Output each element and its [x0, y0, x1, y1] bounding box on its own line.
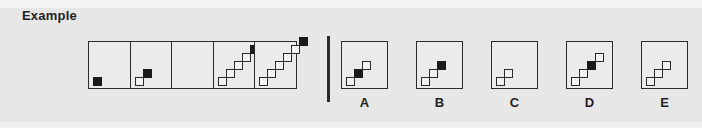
empty-square — [242, 53, 251, 62]
filled-square — [587, 61, 596, 70]
option-b[interactable]: B — [416, 41, 463, 110]
option-e-label: E — [641, 95, 688, 110]
sequence-cell-3 — [171, 41, 214, 89]
option-a-label: A — [341, 95, 388, 110]
empty-square — [654, 69, 663, 78]
empty-square — [429, 69, 438, 78]
page-bottom-band — [0, 122, 702, 128]
option-b-box[interactable] — [416, 41, 463, 89]
sequence-options-divider — [327, 36, 330, 102]
sequence-cell-1 — [88, 41, 131, 89]
option-e-box[interactable] — [641, 41, 688, 89]
sequence-cell-4 — [213, 41, 256, 89]
empty-square — [234, 61, 243, 70]
empty-square — [275, 61, 284, 70]
empty-square — [571, 77, 580, 86]
option-a[interactable]: A — [341, 41, 388, 110]
empty-square — [504, 69, 513, 78]
empty-square — [291, 45, 300, 54]
answer-options: ABCDE — [341, 41, 688, 110]
example-heading: Example — [22, 8, 77, 23]
empty-square — [362, 61, 371, 70]
empty-square — [346, 77, 355, 86]
empty-square — [646, 77, 655, 86]
empty-square — [218, 77, 227, 86]
empty-square — [579, 69, 588, 78]
option-b-label: B — [416, 95, 463, 110]
example-item-panel: Example ABCDE — [0, 0, 702, 128]
sequence-strip — [88, 41, 297, 89]
empty-square — [267, 69, 276, 78]
page-top-band — [0, 0, 702, 8]
filled-square — [143, 69, 152, 78]
filled-square — [437, 61, 446, 70]
option-a-box[interactable] — [341, 41, 388, 89]
empty-square — [662, 61, 671, 70]
option-c[interactable]: C — [491, 41, 538, 110]
option-d[interactable]: D — [566, 41, 613, 110]
empty-square — [496, 77, 505, 86]
sequence-cell-5 — [254, 41, 297, 89]
filled-square — [93, 77, 102, 86]
option-c-label: C — [491, 95, 538, 110]
filled-square — [299, 37, 308, 46]
empty-square — [135, 77, 144, 86]
empty-square — [226, 69, 235, 78]
empty-square — [259, 77, 268, 86]
option-d-label: D — [566, 95, 613, 110]
filled-square — [354, 69, 363, 78]
empty-square — [283, 53, 292, 62]
empty-square — [421, 77, 430, 86]
sequence-cell-2 — [130, 41, 173, 89]
option-e[interactable]: E — [641, 41, 688, 110]
empty-square — [595, 53, 604, 62]
option-c-box[interactable] — [491, 41, 538, 89]
option-d-box[interactable] — [566, 41, 613, 89]
